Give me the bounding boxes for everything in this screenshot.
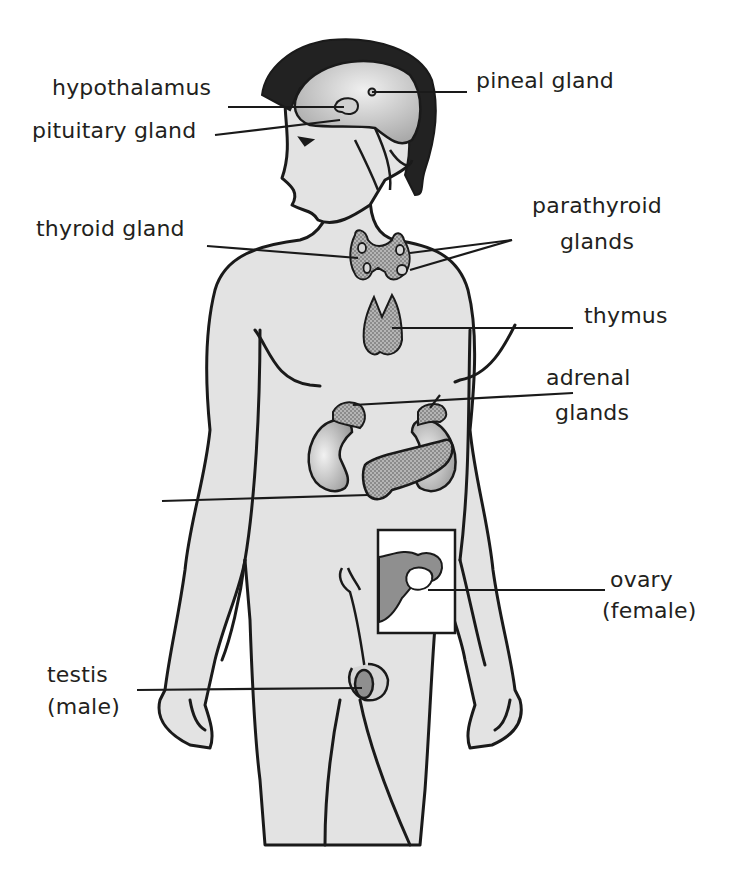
label-parathyroid-glands-line1: parathyroid — [522, 193, 672, 219]
ovary-inset — [378, 530, 455, 633]
label-thyroid-gland: thyroid gland — [36, 216, 185, 242]
label-testis-line1: testis — [47, 662, 108, 688]
adrenal-gland-right — [418, 404, 446, 425]
label-hypothalamus: hypothalamus — [52, 75, 211, 101]
label-pineal-gland: pineal gland — [476, 68, 614, 94]
label-testis-line2: (male) — [47, 694, 120, 720]
label-ovary-line2: (female) — [602, 598, 697, 624]
label-parathyroid-glands-line2: glands — [522, 229, 672, 255]
label-pituitary-gland: pituitary gland — [32, 118, 196, 144]
label-ovary-line1: ovary — [610, 567, 673, 593]
label-adrenal-glands-line1: adrenal — [546, 365, 630, 391]
label-adrenal-glands-line2: glands — [555, 400, 629, 426]
label-thymus: thymus — [584, 303, 668, 329]
